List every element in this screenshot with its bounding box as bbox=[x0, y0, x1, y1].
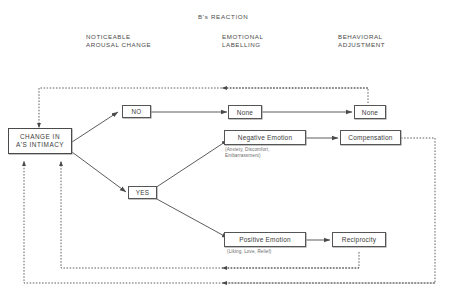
negative-emotion-examples: (Anxiety, Discomfort, Embarrassment) bbox=[225, 147, 270, 159]
diagram-title: B's REACTION bbox=[198, 13, 249, 20]
feedback-none-to-stimulus bbox=[39, 88, 368, 128]
edge-stimulus-to-yes bbox=[72, 152, 126, 192]
column-header-labelling: EMOTIONAL LABELLING bbox=[222, 33, 263, 50]
column-header-behavioral: BEHAVIORAL ADJUSTMENT bbox=[338, 33, 385, 50]
node-positive-emotion[interactable]: Positive Emotion bbox=[224, 232, 306, 247]
node-reciprocity[interactable]: Reciprocity bbox=[332, 232, 386, 247]
edge-stimulus-to-no bbox=[72, 112, 118, 142]
node-yes[interactable]: YES bbox=[128, 186, 157, 199]
feedback-compensation-to-stimulus bbox=[24, 138, 435, 283]
edge-yes-to-negative bbox=[155, 140, 228, 188]
diagram-canvas: B's REACTION NOTICEABLE AROUSAL CHANGE E… bbox=[0, 0, 450, 300]
node-change-in-a-intimacy[interactable]: CHANGE IN A'S INTIMACY bbox=[8, 128, 72, 154]
node-no[interactable]: NO bbox=[122, 105, 151, 118]
node-compensation[interactable]: Compensation bbox=[340, 130, 401, 145]
node-negative-emotion[interactable]: Negative Emotion bbox=[224, 130, 306, 145]
node-none-behavior[interactable]: None bbox=[354, 105, 386, 119]
positive-emotion-examples: (Liking, Love, Relief) bbox=[227, 249, 272, 255]
feedback-reciprocity-to-stimulus bbox=[61, 161, 359, 268]
column-header-arousal: NOTICEABLE AROUSAL CHANGE bbox=[86, 33, 151, 50]
edge-yes-to-positive bbox=[155, 198, 228, 238]
node-none-emotion[interactable]: None bbox=[228, 105, 262, 119]
